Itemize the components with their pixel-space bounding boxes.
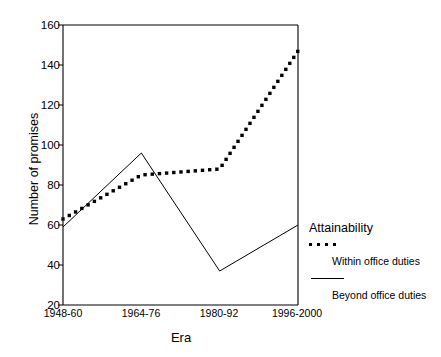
data-point-marker: [137, 175, 140, 178]
data-point-marker: [240, 134, 243, 137]
data-point-marker: [99, 196, 102, 199]
axis-frame: [63, 25, 298, 305]
data-point-marker: [224, 158, 227, 161]
plot-area: [0, 0, 441, 357]
legend-title: Attainability: [309, 221, 373, 235]
data-point-marker: [264, 98, 267, 101]
data-point-marker: [208, 168, 211, 171]
data-point-marker: [74, 210, 77, 213]
data-point-marker: [86, 203, 89, 206]
data-point-marker: [80, 207, 83, 210]
data-point-marker: [268, 92, 271, 95]
data-point-marker: [105, 193, 108, 196]
data-point-marker: [252, 116, 255, 119]
data-point-marker: [228, 152, 231, 155]
data-point-marker: [186, 170, 189, 173]
data-point-marker: [272, 86, 275, 89]
data-point-marker: [232, 146, 235, 149]
data-point-marker: [201, 169, 204, 172]
data-point-marker: [130, 179, 133, 182]
data-point-marker: [256, 110, 259, 113]
data-point-marker: [236, 140, 239, 143]
chart-figure: Number of promises 160 140 120 100 80 60…: [0, 0, 441, 357]
data-point-marker: [118, 186, 121, 189]
data-point-marker: [288, 62, 291, 65]
data-point-marker: [276, 80, 279, 83]
data-point-marker: [260, 104, 263, 107]
data-point-marker: [68, 214, 71, 217]
data-point-marker: [284, 68, 287, 71]
legend-label-beyond-office-duties: Beyond office duties: [332, 289, 426, 301]
data-point-marker: [172, 171, 175, 174]
data-point-marker: [124, 182, 127, 185]
data-point-marker: [244, 128, 247, 131]
data-point-marker: [296, 50, 299, 53]
data-point-marker: [292, 56, 295, 59]
data-point-marker: [248, 122, 251, 125]
y-axis-ticks: [58, 25, 63, 305]
data-point-marker: [194, 169, 197, 172]
data-point-marker: [215, 168, 218, 171]
data-point-marker: [179, 170, 182, 173]
data-point-marker: [93, 200, 96, 203]
data-point-marker: [151, 172, 154, 175]
data-point-marker: [61, 217, 64, 220]
data-point-marker: [112, 189, 115, 192]
data-point-marker: [165, 171, 168, 174]
legend-marker-dotted-line: [309, 242, 345, 248]
data-point-marker: [280, 74, 283, 77]
data-point-marker: [143, 173, 146, 176]
legend-label-within-office-duties: Within office duties: [332, 255, 420, 267]
data-point-marker: [158, 172, 161, 175]
data-point-marker: [220, 164, 223, 167]
legend-marker-solid-line: [311, 278, 344, 279]
